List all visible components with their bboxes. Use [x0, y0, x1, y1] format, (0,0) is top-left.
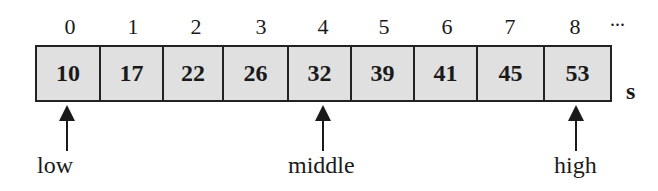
- pointer-label-middle: middle: [288, 152, 355, 179]
- index-label: 4: [303, 14, 343, 40]
- index-label: 5: [364, 14, 404, 40]
- index-label: 2: [176, 14, 216, 40]
- array-name: s: [626, 78, 635, 105]
- index-label: 1: [113, 14, 153, 40]
- index-label: 6: [427, 14, 467, 40]
- index-label: 7: [490, 14, 530, 40]
- arrow-up-icon: [57, 105, 77, 151]
- index-label: 3: [241, 14, 281, 40]
- index-label: 8: [555, 14, 595, 40]
- ellipsis: ...: [610, 8, 625, 31]
- array-cell: 41: [415, 47, 478, 100]
- arrow-up-icon: [566, 105, 586, 151]
- index-label: 0: [50, 14, 90, 40]
- arrow-up-icon: [313, 105, 333, 151]
- array-cell: 10: [37, 47, 101, 100]
- array-cell: 32: [289, 47, 352, 100]
- pointer-label-low: low: [37, 152, 73, 179]
- array-cell: 26: [224, 47, 289, 100]
- array-cell: 17: [101, 47, 164, 100]
- array-s: 10 17 22 26 32 39 41 45 53: [35, 45, 612, 102]
- pointer-label-high: high: [554, 152, 597, 179]
- array-cell: 45: [478, 47, 545, 100]
- array-cell: 22: [164, 47, 224, 100]
- array-cell: 53: [545, 47, 610, 100]
- array-cell: 39: [352, 47, 415, 100]
